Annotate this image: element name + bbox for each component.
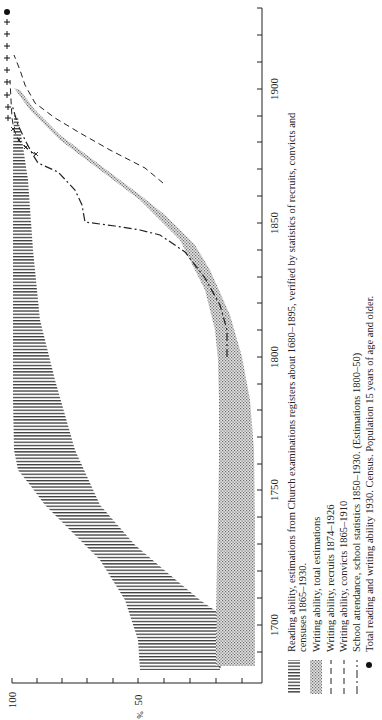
literacy-chart: 1900 1850 1800 1750 1700 100 50 % Readin…: [0, 0, 382, 720]
percent-label-50: 50: [132, 694, 144, 706]
legend-recruits: Writing ability, recruits 1874–1926: [325, 504, 336, 652]
plus-markers: [4, 19, 11, 121]
legend-writing-total: Writing ability, total estimations: [311, 517, 322, 652]
reading-ability-band: [13, 115, 220, 670]
legend-total: Total reading and writing ability 1930. …: [364, 296, 375, 652]
legend-writing-swatch: [310, 660, 322, 694]
year-axis: [257, 8, 262, 683]
percent-axis-label: %: [135, 711, 145, 719]
total-1930-dot: [4, 9, 10, 15]
legend-reading-swatch: [288, 660, 300, 694]
percent-axis: [12, 678, 262, 683]
recruits-line: [14, 55, 163, 183]
legend-reading-line1: Reading ability, estimations from Church…: [286, 112, 297, 652]
school-attendance-line: [12, 105, 227, 357]
year-label-1800: 1800: [268, 346, 280, 369]
legend-convicts: Writing ability, convicts 1865–1910: [338, 501, 349, 652]
percent-label-100: 100: [6, 691, 18, 708]
legend-reading-line2: censuses 1865–1930.: [297, 563, 308, 652]
legend-school: School attendance, school statistics 185…: [351, 352, 363, 652]
legend-total-dot: [366, 662, 372, 668]
year-label-1750: 1750: [268, 479, 280, 502]
year-label-1700: 1700: [268, 614, 280, 637]
year-label-1900: 1900: [268, 78, 280, 101]
year-label-1850: 1850: [268, 212, 280, 235]
